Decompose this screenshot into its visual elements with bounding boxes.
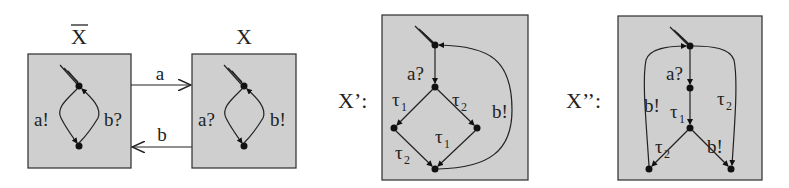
edge-label: τ [717,88,725,109]
automaton-x: X a? b! [192,24,296,168]
automaton-x-double-prime: X’’: a? τ 1 b! τ 2 τ 2 b! [566,16,762,180]
channel-b: b [132,124,192,147]
automaton-title-x-prime: X’: [338,88,367,113]
edge-label-sub: 2 [664,147,670,161]
edge-label: b! [492,101,508,122]
state-node [241,143,248,150]
edge-label-sub: 1 [401,100,407,114]
edge-label: τ [452,89,460,110]
automaton-title-xbar: X [71,24,87,49]
automaton-title-x-double-prime: X’’: [566,88,601,113]
edge-label: a? [198,109,215,130]
automaton-xbar: X a! b? [28,24,131,168]
automaton-title-x: X [236,24,252,49]
edge-label: b! [707,136,723,157]
state-node [76,143,83,150]
state-node [241,83,248,90]
edge-label: a? [666,63,683,84]
edge-label: τ [435,126,443,147]
edge-label-sub: 2 [726,99,732,113]
edge-label-sub: 2 [461,100,467,114]
edge-label: τ [655,136,663,157]
edge-label: b! [644,95,660,116]
edge-label-sub: 2 [404,153,410,167]
edge-label-sub: 1 [444,137,450,151]
edge-label: τ [392,89,400,110]
channel-label: b [157,124,167,145]
edge-label: a? [407,63,424,84]
edge-label: b! [270,109,286,130]
diagram-canvas: X a! b? a b X a? b! [0,0,789,188]
edge-label: τ [395,142,403,163]
edge-label: a! [34,109,49,130]
state-node [76,83,83,90]
edge-label: τ [670,101,678,122]
channel-label: a [156,63,165,84]
channel-a: a [131,63,191,85]
automaton-x-prime: X’: a? τ 1 τ 2 τ 1 τ 2 b! [338,15,528,180]
edge-label: b? [104,109,122,130]
edge-label-sub: 1 [679,112,685,126]
